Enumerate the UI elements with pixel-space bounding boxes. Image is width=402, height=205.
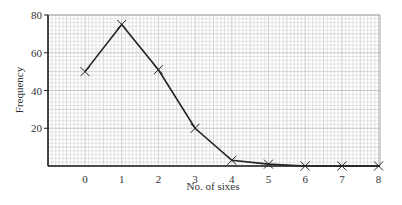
x-axis-title: No. of sixes: [187, 180, 240, 192]
y-tick-label: 80: [31, 9, 43, 21]
frequency-line-chart: 20406080 012345678 No. of sixes Frequenc…: [0, 0, 402, 205]
x-tick-label: 6: [302, 173, 308, 185]
y-tick-label: 60: [31, 47, 43, 59]
x-tick-label: 0: [82, 173, 88, 185]
x-tick-label: 1: [119, 173, 125, 185]
y-tick-label: 40: [31, 85, 43, 97]
x-tick-label: 8: [376, 173, 382, 185]
x-tick-label: 2: [156, 173, 162, 185]
y-axis-ticks: 20406080: [31, 9, 48, 134]
y-axis-title: Frequency: [13, 66, 25, 113]
x-tick-label: 7: [339, 173, 345, 185]
y-tick-label: 20: [31, 122, 43, 134]
graph-paper-grid: [48, 15, 380, 166]
x-tick-label: 5: [266, 173, 272, 185]
